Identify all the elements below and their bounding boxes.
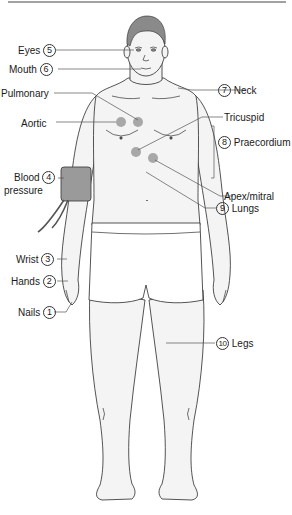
- right-leg: [89, 290, 145, 500]
- label-eyes: Eyes 5: [18, 44, 56, 57]
- blood-pressure-cuff: [61, 167, 91, 201]
- bp-number-badge: 4: [42, 171, 55, 184]
- nails-text: Nails: [18, 307, 40, 318]
- label-hands: Hands 2: [11, 275, 56, 288]
- legs-number-badge: 10: [216, 337, 229, 350]
- label-blood-pressure: Blood 4: [14, 171, 55, 184]
- lungs-number-badge: 9: [216, 202, 229, 215]
- hands-text: Hands: [11, 276, 40, 287]
- apex-mitral-text: Apex/mitral: [224, 191, 274, 202]
- neck-text: Neck: [234, 85, 257, 96]
- bp-text-line2: pressure: [4, 185, 43, 196]
- pulmonary-point: [133, 117, 143, 127]
- examination-diagram: Eyes 5 Mouth 6 Pulmonary Aortic Blood 4 …: [0, 0, 292, 515]
- left-leg: [149, 290, 204, 500]
- tricuspid-text: Tricuspid: [224, 112, 264, 123]
- wrist-number-badge: 3: [41, 253, 54, 266]
- label-neck: 7 Neck: [218, 84, 257, 97]
- aortic-point: [116, 117, 126, 127]
- left-ear: [162, 46, 168, 58]
- mouth-number-badge: 6: [40, 63, 53, 76]
- lungs-text: Lungs: [232, 203, 259, 214]
- tricuspid-point: [131, 147, 141, 157]
- mouth-text: Mouth: [9, 64, 37, 75]
- label-legs: 10 Legs: [216, 337, 253, 350]
- pulmonary-text: Pulmonary: [1, 88, 49, 99]
- label-lungs: 9 Lungs: [216, 202, 259, 215]
- bp-text-line1: Blood: [14, 172, 40, 183]
- label-mouth: Mouth 6: [9, 63, 53, 76]
- praecordium-text: Praecordium: [234, 137, 291, 148]
- label-tricuspid: Tricuspid: [224, 111, 264, 123]
- eyes-text: Eyes: [18, 45, 40, 56]
- label-praecordium: 8 Praecordium: [218, 136, 290, 149]
- nails-number-badge: 1: [43, 306, 56, 319]
- neck-number-badge: 7: [218, 84, 231, 97]
- eyes-number-badge: 5: [43, 44, 56, 57]
- label-blood-pressure-line2: pressure: [4, 184, 43, 196]
- right-ear: [124, 46, 130, 58]
- underwear: [89, 223, 203, 303]
- label-aortic: Aortic: [21, 117, 47, 129]
- label-wrist: Wrist 3: [16, 253, 54, 266]
- label-pulmonary: Pulmonary: [1, 87, 49, 99]
- torso: [92, 78, 200, 225]
- aortic-text: Aortic: [21, 118, 47, 129]
- hands-number-badge: 2: [43, 275, 56, 288]
- praecordium-number-badge: 8: [218, 136, 231, 149]
- cuff-tubing: [38, 200, 68, 232]
- apex-mitral-point: [148, 153, 158, 163]
- legs-text: Legs: [232, 338, 254, 349]
- wrist-text: Wrist: [16, 254, 39, 265]
- label-apex-mitral: Apex/mitral: [224, 190, 274, 202]
- label-nails: Nails 1: [18, 306, 56, 319]
